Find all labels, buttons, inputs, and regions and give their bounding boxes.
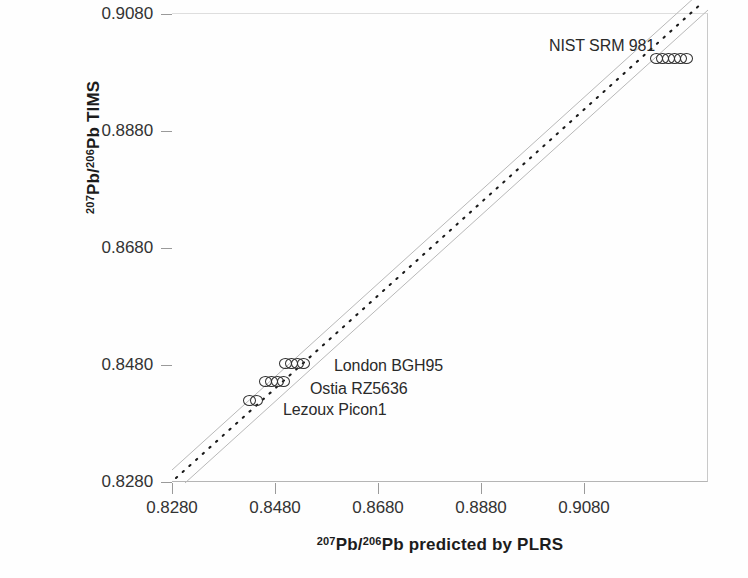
ytick-label-3: 0.8880 [63,121,153,141]
y-axis-label: 207Pb/206Pb TIMS [84,81,104,214]
ytick-mark-1 [161,365,172,366]
xtick-mark-4 [584,483,585,494]
x-axis-label-sup-207: 207 [317,535,336,547]
xtick-label-4: 0.9080 [539,498,629,518]
annotation-lezoux-picon1: Lezoux Picon1 [283,401,387,419]
ytick-label-2: 0.8680 [63,238,153,258]
ytick-label-1: 0.8480 [63,355,153,375]
xtick-mark-2 [378,483,379,494]
data-point-ostia-4 [277,376,290,387]
ytick-mark-0 [161,482,172,483]
identity-line [176,3,702,478]
y-axis-label-sup-206: 206 [84,149,96,168]
xtick-mark-0 [172,483,173,494]
data-point-nist-6 [680,53,693,64]
xtick-label-0: 0.8280 [127,498,217,518]
ytick-mark-2 [161,248,172,249]
xtick-mark-3 [481,483,482,494]
data-point-lezoux-2 [250,395,263,406]
xtick-label-3: 0.8880 [436,498,526,518]
y-axis-label-suffix: Pb TIMS [84,81,103,149]
x-axis-label-suffix: Pb predicted by PLRS [382,535,564,554]
ytick-mark-4 [161,14,172,15]
x-axis-label-sup-206: 206 [363,535,382,547]
annotation-ostia-rz5636: Ostia RZ5636 [310,380,408,398]
y-axis-label-pb-slash: Pb/ [84,168,103,195]
annotation-london-bgh95: London BGH95 [334,357,443,375]
ytick-label-4: 0.9080 [63,4,153,24]
ytick-label-0: 0.8280 [63,472,153,492]
xtick-label-1: 0.8480 [230,498,320,518]
plot-canvas [172,14,708,483]
x-axis-label-pb-slash: Pb/ [336,535,363,554]
data-point-london-4 [297,358,310,369]
lower-band-line [185,10,708,483]
plot-area: 0.8280 0.8480 0.8680 0.8880 0.9080 0.828… [172,13,708,482]
annotation-nist-srm-981: NIST SRM 981 [549,37,655,55]
xtick-label-2: 0.8680 [333,498,423,518]
y-axis-label-sup-207: 207 [84,195,96,214]
xtick-mark-1 [275,483,276,494]
ytick-mark-3 [161,131,172,132]
x-axis-label: 207Pb/206Pb predicted by PLRS [172,535,708,555]
scatter-plot-figure: 0.8280 0.8480 0.8680 0.8880 0.9080 0.828… [0,0,748,578]
